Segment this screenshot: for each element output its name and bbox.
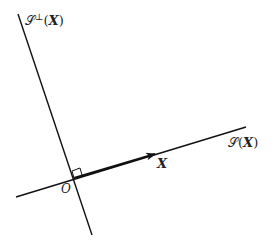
diagram-canvas: 𝒮⊥(X) 𝒮(X) X O (0, 0, 272, 249)
vector-x-label: X (156, 156, 168, 171)
perpendicular-space-line (18, 14, 92, 235)
vector-x-arrow (74, 154, 155, 178)
origin-label: O (61, 182, 71, 196)
space-label: 𝒮(X) (228, 135, 258, 150)
perpendicular-space-label: 𝒮⊥(X) (25, 12, 64, 28)
